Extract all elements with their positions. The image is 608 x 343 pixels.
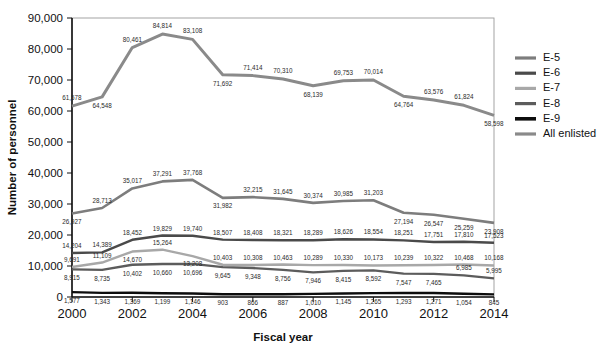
legend-label-e-6: E-6 [543, 66, 560, 78]
legend-label-all-enlisted: All enlisted [543, 127, 596, 139]
data-point-label: 1,271 [426, 298, 442, 305]
y-tick-label: 0 [57, 291, 63, 303]
y-axis-title: Number of personnel [6, 100, 18, 216]
y-tick-label: 80,000 [28, 43, 63, 55]
data-point-label: 1,293 [396, 298, 412, 305]
y-tick-label: 50,000 [28, 136, 63, 148]
data-point-label: 19,829 [153, 225, 173, 232]
chart-canvas: 010,00020,00030,00040,00050,00060,00070,… [0, 0, 608, 343]
data-point-label: 1,146 [185, 298, 201, 305]
data-point-label: 10,322 [424, 254, 444, 261]
y-tick-label: 90,000 [28, 12, 63, 24]
data-point-label: 15,264 [153, 239, 173, 246]
data-point-label: 25,259 [454, 224, 474, 231]
data-point-label: 35,017 [123, 177, 143, 184]
data-point-label: 10,696 [183, 269, 203, 276]
data-point-label: 27,194 [394, 218, 414, 225]
data-point-label: 1,145 [335, 298, 351, 305]
data-point-label: 80,461 [123, 36, 143, 43]
y-tick-label: 30,000 [28, 198, 63, 210]
data-point-label: 14,389 [93, 241, 113, 248]
data-point-label: 1,054 [456, 299, 472, 306]
data-point-label: 64,764 [394, 101, 414, 108]
data-point-label: 18,507 [213, 229, 233, 236]
x-tick-label: 2006 [238, 306, 267, 321]
data-point-label: 17,751 [424, 231, 444, 238]
data-point-label: 31,645 [273, 188, 293, 195]
x-tick-label: 2000 [58, 306, 87, 321]
data-point-label: 14,670 [123, 256, 143, 263]
data-point-label: 70,014 [364, 68, 384, 75]
x-tick-label: 2010 [359, 306, 388, 321]
data-point-label: 10,403 [213, 254, 233, 261]
data-point-label: 8,415 [335, 276, 351, 283]
data-point-label: 10,463 [273, 254, 293, 261]
data-point-label: 1,199 [155, 298, 171, 305]
data-point-label: 68,139 [304, 91, 324, 98]
y-tick-label: 60,000 [28, 105, 63, 117]
data-point-label: 31,982 [213, 202, 233, 209]
data-point-label: 14,204 [62, 242, 82, 249]
y-tick-label: 20,000 [28, 229, 63, 241]
data-point-label: 8,756 [275, 275, 291, 282]
data-point-label: 7,547 [396, 279, 412, 286]
data-point-label: 13,208 [183, 260, 203, 267]
data-point-label: 17,523 [484, 232, 504, 239]
data-point-label: 10,239 [394, 254, 414, 261]
x-tick-label: 2014 [480, 306, 509, 321]
data-point-label: 18,626 [334, 228, 354, 235]
data-point-label: 71,414 [243, 64, 263, 71]
x-tick-label: 2012 [419, 306, 448, 321]
data-point-label: 1,343 [94, 298, 110, 305]
x-tick-label: 2002 [118, 306, 147, 321]
x-tick-label: 2004 [178, 306, 207, 321]
data-point-label: 83,108 [183, 27, 203, 34]
data-point-label: 28,713 [93, 197, 113, 204]
legend-label-e-7: E-7 [543, 81, 560, 93]
data-point-label: 84,814 [153, 22, 173, 29]
data-point-label: 32,215 [243, 186, 263, 193]
data-point-label: 63,576 [424, 88, 444, 95]
data-point-label: 64,548 [93, 102, 113, 109]
data-point-label: 1,265 [366, 298, 382, 305]
y-tick-label: 40,000 [28, 167, 63, 179]
data-point-label: 37,291 [153, 170, 173, 177]
data-point-label: 10,402 [123, 270, 143, 277]
data-point-label: 61,578 [62, 94, 82, 101]
data-point-label: 26,927 [62, 218, 82, 225]
data-point-label: 37,768 [183, 169, 203, 176]
data-point-label: 866 [248, 299, 259, 306]
data-point-label: 71,692 [213, 80, 233, 87]
data-point-label: 18,554 [364, 228, 384, 235]
y-tick-label: 10,000 [28, 260, 63, 272]
data-point-label: 10,660 [153, 269, 173, 276]
chart-legend: E-5E-6E-7E-8E-9All enlisted [515, 51, 596, 139]
y-tick-label: 70,000 [28, 74, 63, 86]
data-point-label: 18,321 [273, 229, 293, 236]
data-point-label: 31,203 [364, 189, 384, 196]
data-point-label: 845 [489, 299, 500, 306]
data-point-label: 1,010 [305, 299, 321, 306]
data-point-label: 10,168 [484, 254, 504, 261]
data-point-label: 5,995 [486, 267, 502, 274]
data-point-label: 8,592 [366, 275, 382, 282]
data-point-label: 18,251 [394, 229, 414, 236]
data-point-label: 9,691 [64, 256, 80, 263]
data-point-label: 10,468 [454, 254, 474, 261]
data-point-label: 6,985 [456, 264, 472, 271]
data-point-label: 10,289 [304, 254, 324, 261]
data-point-label: 8,735 [94, 275, 110, 282]
data-point-label: 26,547 [424, 220, 444, 227]
data-point-label: 887 [278, 299, 289, 306]
data-point-label: 7,465 [426, 279, 442, 286]
legend-label-e-5: E-5 [543, 51, 560, 63]
legend-label-e-9: E-9 [543, 112, 560, 124]
data-point-label: 61,824 [454, 93, 474, 100]
data-point-label: 10,173 [364, 254, 384, 261]
data-point-label: 17,810 [454, 231, 474, 238]
legend-label-e-8: E-8 [543, 97, 560, 109]
data-point-label: 18,452 [123, 229, 143, 236]
data-point-label: 69,753 [334, 69, 354, 76]
data-point-label: 8,915 [64, 274, 80, 281]
data-point-label: 18,408 [243, 229, 263, 236]
